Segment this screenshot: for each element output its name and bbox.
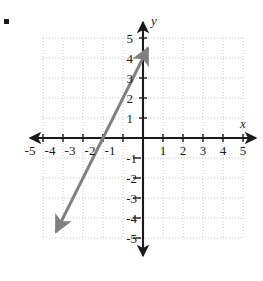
x-tick-label: 5	[240, 143, 247, 158]
x-tick-label: -2	[85, 143, 96, 158]
x-tick-label: -5	[25, 143, 36, 158]
y-tick-label: 2	[127, 91, 134, 106]
x-axis-label: x	[239, 116, 246, 131]
y-tick-label: -5	[126, 231, 137, 246]
x-tick-label: -1	[105, 143, 116, 158]
y-tick-label: -2	[126, 171, 137, 186]
y-tick-labels-negative: -1 -2 -3 -4 -5	[126, 151, 137, 246]
x-tick-label: -3	[65, 143, 76, 158]
y-tick-label: 1	[127, 111, 134, 126]
x-tick-label: 2	[180, 143, 187, 158]
y-tick-label: 5	[127, 31, 134, 46]
y-tick-label: -1	[126, 151, 137, 166]
y-tick-label: -3	[126, 191, 137, 206]
y-tick-labels-positive: 5 4 3 2 1	[127, 31, 134, 126]
x-tick-label: 4	[220, 143, 227, 158]
y-axis-label: y	[149, 13, 157, 28]
x-tick-labels-negative: -5 -4 -3 -2 -1	[25, 143, 116, 158]
x-tick-label: -4	[45, 143, 56, 158]
y-tick-label: 4	[127, 51, 134, 66]
x-tick-labels-positive: 1 2 3 4 5	[160, 143, 247, 158]
coordinate-plane-figure: x y -5 -4 -3 -2 -1 1 2 3 4 5 5 4 3 2 1 -…	[0, 0, 263, 281]
graph-canvas: x y -5 -4 -3 -2 -1 1 2 3 4 5 5 4 3 2 1 -…	[0, 0, 263, 281]
y-tick-label: -4	[126, 211, 137, 226]
x-tick-label: 3	[200, 143, 207, 158]
x-tick-label: 1	[160, 143, 167, 158]
y-tick-label: 3	[127, 71, 134, 86]
